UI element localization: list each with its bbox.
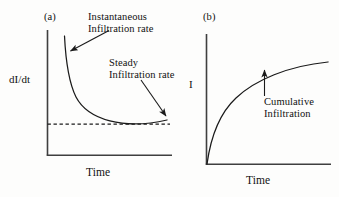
panel-a-tag: (a) <box>44 11 56 23</box>
annotation-line-1: Steady <box>109 57 175 69</box>
panel-b-tag: (b) <box>203 11 216 23</box>
panel-a-instantaneous-annotation: Instantaneous Infiltration rate <box>88 11 154 34</box>
panel-a-y-axis-label: dI/dt <box>9 74 30 86</box>
annotation-line-1: Cumulative <box>264 96 314 108</box>
infiltration-figure: (a) dI/dt Time Instantaneous Infiltratio… <box>0 0 339 197</box>
panel-a-steady-annotation: Steady Infiltration rate <box>109 57 175 80</box>
panel-b-y-axis-label: I <box>189 79 193 91</box>
panel-a-steady-annotation-arrow <box>141 80 166 116</box>
annotation-line-2: Infiltration rate <box>88 23 154 35</box>
panel-b-x-axis-label: Time <box>246 175 270 187</box>
panel-a-x-axis-label: Time <box>86 167 110 179</box>
panel-b-cumulative-annotation: Cumulative Infiltration <box>264 96 314 119</box>
annotation-line-1: Instantaneous <box>88 11 154 23</box>
annotation-line-2: Infiltration rate <box>109 69 175 81</box>
annotation-line-2: Infiltration <box>264 108 314 120</box>
